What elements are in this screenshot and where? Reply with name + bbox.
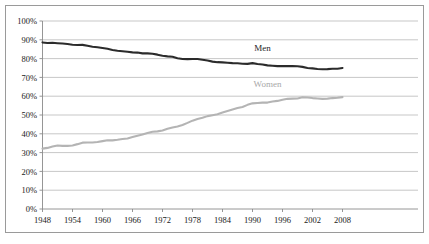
y-tick-label: 20%	[21, 167, 37, 177]
series-label-women: Women	[254, 79, 282, 89]
series-label-men: Men	[254, 43, 271, 53]
y-tick-label: 50%	[21, 110, 37, 120]
x-tick-label: 1996	[274, 215, 291, 225]
y-tick-label: 10%	[21, 185, 37, 195]
x-tick-label: 2008	[334, 215, 351, 225]
x-tick-label: 1960	[94, 215, 111, 225]
x-tick-labels: 1948195419601966197219781984199019962002…	[34, 215, 351, 225]
x-tick-label: 1978	[184, 215, 201, 225]
y-tick-label: 80%	[21, 54, 37, 64]
y-tick-label: 90%	[21, 35, 37, 45]
y-tick-label: 30%	[21, 148, 37, 158]
x-tick-label: 1984	[214, 215, 232, 225]
y-tick-label: 0%	[26, 204, 37, 214]
series-line-women	[43, 97, 343, 149]
y-tick-labels: 0%10%20%30%40%50%60%70%80%90%100%	[17, 16, 37, 214]
x-tick-label: 1972	[154, 215, 171, 225]
line-chart-plot: 0%10%20%30%40%50%60%70%80%90%100% 194819…	[0, 0, 429, 244]
gridlines	[43, 21, 419, 190]
x-tick-label: 1948	[34, 215, 51, 225]
x-tick-label: 2002	[304, 215, 321, 225]
chart-figure: 0%10%20%30%40%50%60%70%80%90%100% 194819…	[0, 0, 429, 244]
y-tick-label: 60%	[21, 91, 37, 101]
y-tick-label: 40%	[21, 129, 37, 139]
series-line-men	[43, 42, 343, 69]
x-tick-label: 1990	[244, 215, 261, 225]
y-tick-label: 70%	[21, 73, 37, 83]
x-tick-label: 1966	[124, 215, 141, 225]
axis-ticks	[40, 21, 343, 212]
x-tick-label: 1954	[64, 215, 82, 225]
y-tick-label: 100%	[17, 16, 37, 26]
